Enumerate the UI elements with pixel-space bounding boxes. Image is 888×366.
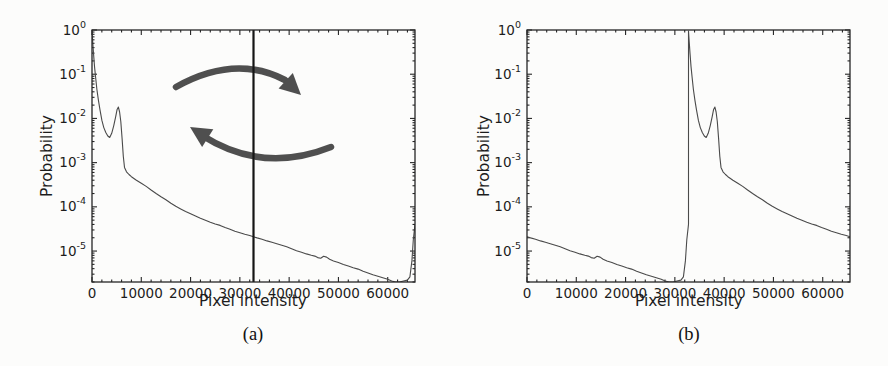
subfigure-caption-b: (b): [659, 324, 719, 345]
panel-b: 010000200003000040000500006000010010-110…: [444, 0, 888, 366]
svg-text:60000: 60000: [801, 285, 844, 301]
svg-text:10-5: 10-5: [59, 240, 86, 259]
svg-text:10-4: 10-4: [494, 195, 521, 214]
panel-a: 010000200003000040000500006000010010-110…: [0, 0, 444, 366]
subfigure-caption-a: (a): [223, 324, 283, 345]
svg-text:10-5: 10-5: [494, 240, 521, 259]
svg-text:0: 0: [523, 285, 532, 301]
svg-text:0: 0: [88, 285, 97, 301]
x-axis-label: Pixel intensity: [589, 292, 789, 310]
svg-text:10-1: 10-1: [494, 63, 521, 82]
y-axis-label: Probability: [37, 30, 57, 282]
svg-text:10-3: 10-3: [494, 151, 521, 170]
y-axis-label: Probability: [474, 30, 494, 282]
svg-text:10-1: 10-1: [59, 63, 86, 82]
svg-text:10-2: 10-2: [494, 107, 521, 126]
svg-text:100: 100: [63, 19, 86, 38]
svg-text:10-4: 10-4: [59, 195, 86, 214]
x-axis-label: Pixel intensity: [153, 292, 353, 310]
y-tick-labels: 10010-110-210-310-410-5: [59, 19, 86, 259]
histogram-plot-a: 010000200003000040000500006000010010-110…: [0, 0, 444, 366]
svg-text:10-3: 10-3: [59, 151, 86, 170]
svg-text:10-2: 10-2: [59, 107, 86, 126]
histogram-plot-b: 010000200003000040000500006000010010-110…: [444, 0, 888, 366]
figure-canvas: 010000200003000040000500006000010010-110…: [0, 0, 888, 366]
y-tick-labels: 10010-110-210-310-410-5: [494, 19, 521, 259]
svg-text:100: 100: [498, 19, 521, 38]
rotated-intensity-histogram-curve: [527, 31, 850, 282]
svg-text:60000: 60000: [366, 285, 409, 301]
